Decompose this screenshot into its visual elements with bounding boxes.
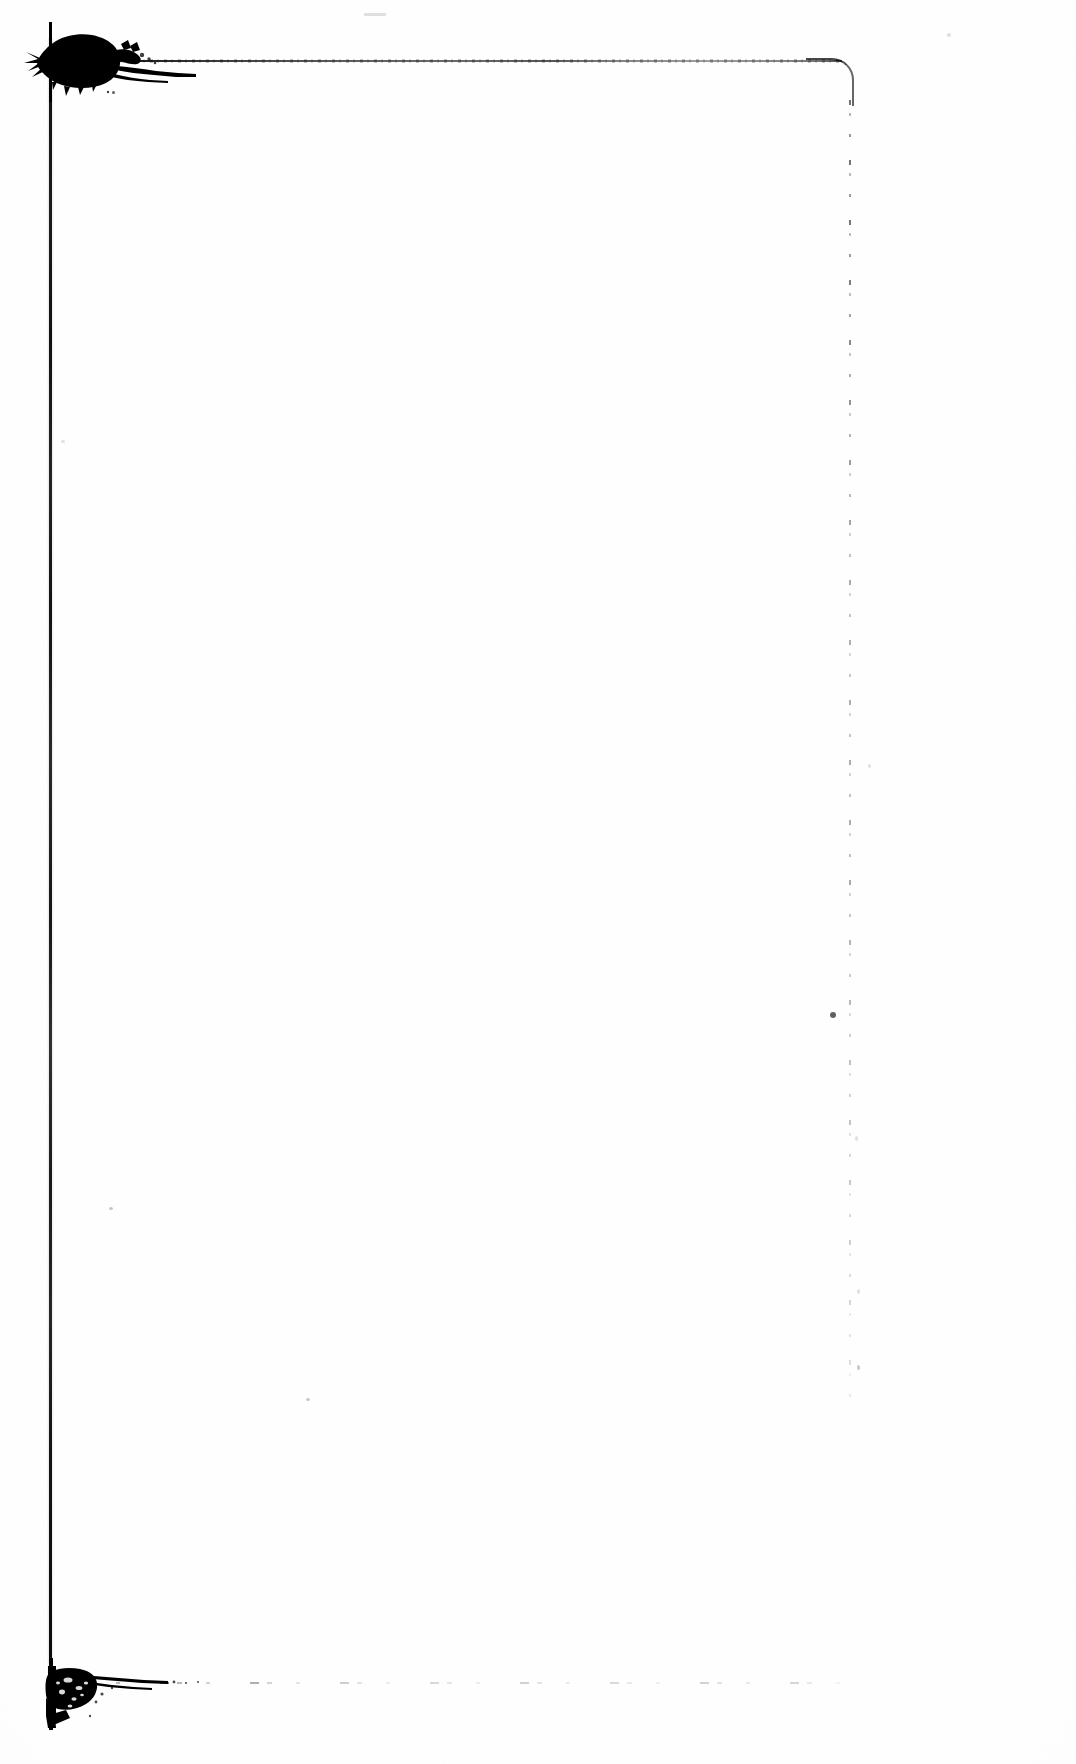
right-vertical-rule bbox=[849, 100, 851, 1420]
speck-right-col-c bbox=[855, 1136, 858, 1141]
speck-top-band bbox=[364, 13, 386, 16]
speck-right-col-b bbox=[868, 764, 871, 768]
bottom-left-ink-blot bbox=[24, 1658, 214, 1748]
left-vertical-rule bbox=[49, 38, 52, 1718]
speck-right-col-d bbox=[857, 1289, 860, 1294]
left-rule-halo bbox=[47, 38, 54, 1718]
scanned-page bbox=[0, 0, 1076, 1764]
speck-right-col-a bbox=[947, 33, 951, 37]
page-body-text bbox=[60, 80, 840, 1670]
speck-lower-right bbox=[857, 1365, 860, 1370]
